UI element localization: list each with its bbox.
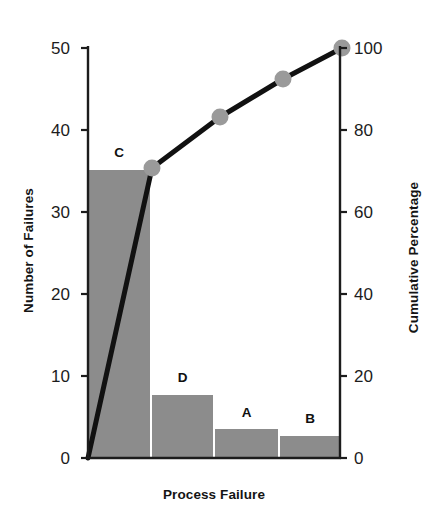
left-tick-label-40: 40 — [26, 122, 70, 139]
left-tick-label-50: 50 — [26, 40, 70, 57]
right-tick-label-40: 40 — [354, 286, 398, 303]
bar-label-b: B — [280, 412, 340, 426]
bar-a — [215, 429, 278, 458]
right-tick-label-60: 60 — [354, 204, 398, 221]
bar-d — [152, 395, 213, 458]
marker-c — [144, 160, 161, 177]
y-axis-left-title: Number of Failures — [21, 151, 36, 351]
left-tick-label-0: 0 — [26, 450, 70, 467]
right-tick-label-20: 20 — [354, 368, 398, 385]
left-tick-label-10: 10 — [26, 368, 70, 385]
x-axis-title: Process Failure — [88, 487, 340, 502]
marker-a — [275, 71, 292, 88]
right-tick-label-0: 0 — [354, 450, 398, 467]
bar-label-a: A — [215, 406, 278, 420]
bar-label-d: D — [152, 371, 213, 385]
bar-b — [280, 436, 340, 458]
pareto-chart: 0 10 20 30 40 50 0 20 40 60 80 100 C D A… — [0, 0, 432, 527]
chart-plot-area — [0, 0, 432, 527]
marker-d — [212, 109, 229, 126]
bar-label-c: C — [89, 146, 149, 160]
right-tick-label-80: 80 — [354, 122, 398, 139]
y-axis-right-title: Cumulative Percentage — [406, 148, 421, 368]
right-tick-label-100: 100 — [354, 40, 398, 57]
